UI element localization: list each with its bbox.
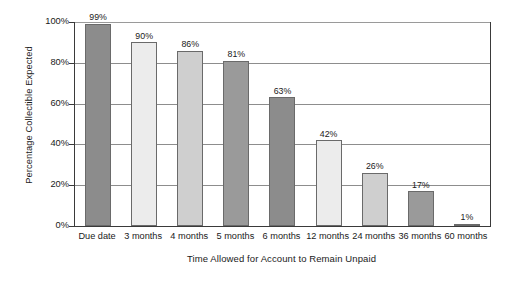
y-axis-tick-label: 0% xyxy=(29,221,69,230)
bar-slot: 99% xyxy=(75,22,121,226)
bar-value-label: 81% xyxy=(228,50,246,59)
bar[interactable] xyxy=(408,191,434,226)
bar-slot: 63% xyxy=(259,22,305,226)
bar-value-label: 42% xyxy=(320,130,338,139)
x-axis-category-label: 24 months xyxy=(352,232,395,241)
bar[interactable] xyxy=(85,24,111,226)
bar[interactable] xyxy=(131,42,157,226)
bar-value-label: 86% xyxy=(181,40,199,49)
bar-value-label: 99% xyxy=(89,13,107,22)
y-axis-tick-mark xyxy=(69,226,74,227)
bar-slot: 42% xyxy=(306,22,352,226)
x-axis-category-label: 3 months xyxy=(124,232,162,241)
bar-slot: 1% xyxy=(444,22,490,226)
bar-slot: 17% xyxy=(398,22,444,226)
x-axis-category-label: Due date xyxy=(78,232,115,241)
bar-slot: 86% xyxy=(167,22,213,226)
bar[interactable] xyxy=(177,51,203,226)
bar-value-label: 17% xyxy=(412,181,430,190)
bar[interactable] xyxy=(269,97,295,226)
bar-value-label: 26% xyxy=(366,162,384,171)
y-axis-tick-label: 20% xyxy=(29,180,69,189)
x-axis-category-label: 6 months xyxy=(263,232,301,241)
bar-slot: 90% xyxy=(121,22,167,226)
bar[interactable] xyxy=(362,173,388,226)
bar[interactable] xyxy=(316,140,342,226)
bar-value-label: 90% xyxy=(135,32,153,41)
bar-value-label: 63% xyxy=(274,87,292,96)
y-axis-tick-mark xyxy=(69,104,74,105)
y-axis-tick-label: 40% xyxy=(29,139,69,148)
x-axis-category-label: 5 months xyxy=(216,232,254,241)
y-axis-tick-label: 60% xyxy=(29,99,69,108)
bars-layer: 99%90%86%81%63%42%26%17%1% xyxy=(75,22,490,226)
bar[interactable] xyxy=(223,61,249,226)
x-axis-category-label: 60 months xyxy=(444,232,487,241)
x-axis-category-label: 12 months xyxy=(306,232,349,241)
y-axis-tick-label: 80% xyxy=(29,58,69,67)
plot-area: 99%90%86%81%63%42%26%17%1% xyxy=(74,22,491,227)
y-axis-tick-mark xyxy=(69,185,74,186)
bar-value-label: 1% xyxy=(461,213,474,222)
y-axis-tick-label: 100% xyxy=(29,17,69,26)
x-axis-category-label: 36 months xyxy=(398,232,441,241)
y-axis-tick-mark xyxy=(69,144,74,145)
y-axis-tick-mark xyxy=(69,22,74,23)
bar-slot: 81% xyxy=(213,22,259,226)
x-axis-category-label: 4 months xyxy=(170,232,208,241)
bar-chart: Percentage Collectible Expected 99%90%86… xyxy=(0,0,516,282)
bar[interactable] xyxy=(454,224,480,226)
bar-slot: 26% xyxy=(352,22,398,226)
y-axis-tick-mark xyxy=(69,63,74,64)
x-axis-title: Time Allowed for Account to Remain Unpai… xyxy=(74,253,489,264)
